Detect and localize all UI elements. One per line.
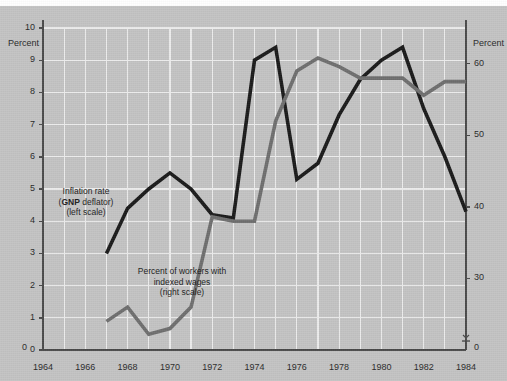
x-tick-label-1978: 1978 — [323, 362, 355, 372]
left-tick-label-10: 10 — [0, 22, 35, 32]
left-tick-label-6: 6 — [0, 151, 35, 161]
chart-figure: PercentPercent01234567891003040506001964… — [0, 0, 507, 381]
indexed-wages-label-line-3: (right scale) — [138, 287, 226, 298]
x-tick-label-1966: 1966 — [69, 362, 101, 372]
right-tick-label-30: 30 — [474, 272, 484, 282]
x-tick-label-1974: 1974 — [239, 362, 271, 372]
left-tick-label-5: 5 — [0, 183, 35, 193]
indexed-wages-label-line-2: indexed wages — [138, 277, 226, 288]
indexed-wages-label: Percent of workers withindexed wages(rig… — [138, 266, 226, 298]
left-axis-title: Percent — [8, 38, 39, 48]
inflation-label-line-3: (left scale) — [59, 207, 114, 218]
left-tick-label-7: 7 — [0, 119, 35, 129]
left-tick-label-8: 8 — [0, 86, 35, 96]
x-axis-origin-label: 0 — [22, 342, 27, 352]
left-tick-label-3: 3 — [0, 247, 35, 257]
right-tick-label-40: 40 — [474, 201, 484, 211]
x-tick-label-1970: 1970 — [154, 362, 186, 372]
series-line-inflation-rate — [106, 47, 466, 253]
left-tick-label-4: 4 — [0, 215, 35, 225]
right-tick-label-50: 50 — [474, 129, 484, 139]
inflation-label-line-2: (GNP deflator) — [59, 197, 114, 208]
left-tick-label-0: 0 — [0, 344, 35, 354]
indexed-wages-label-line-1: Percent of workers with — [138, 266, 226, 277]
x-tick-label-1982: 1982 — [408, 362, 440, 372]
x-tick-label-1984: 1984 — [450, 362, 482, 372]
x-tick-label-1968: 1968 — [112, 362, 144, 372]
left-tick-label-9: 9 — [0, 54, 35, 64]
right-tick-label-60: 60 — [474, 58, 484, 68]
inflation-label-line-1: Inflation rate — [59, 186, 114, 197]
left-tick-label-2: 2 — [0, 280, 35, 290]
right-axis-title: Percent — [473, 38, 504, 48]
inflation-label: Inflation rate(GNP deflator)(left scale) — [59, 186, 114, 218]
x-tick-label-1976: 1976 — [281, 362, 313, 372]
x-tick-label-1964: 1964 — [27, 362, 59, 372]
x-tick-label-1980: 1980 — [365, 362, 397, 372]
x-tick-label-1972: 1972 — [196, 362, 228, 372]
right-tick-label-0: 0 — [474, 342, 479, 352]
left-tick-label-1: 1 — [0, 312, 35, 322]
